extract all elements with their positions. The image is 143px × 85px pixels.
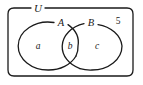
outside-count-label: 5 [116, 16, 121, 26]
venn-diagram-figure: U A B a b c 5 [0, 0, 143, 85]
set-label-b: B [88, 17, 95, 28]
universe-label: U [34, 2, 43, 14]
region-label-a: a [36, 41, 41, 51]
region-label-c: c [95, 41, 100, 51]
region-label-b: b [68, 41, 73, 51]
venn-diagram-canvas: U A B a b c 5 [0, 0, 143, 85]
set-label-a: A [57, 17, 65, 28]
